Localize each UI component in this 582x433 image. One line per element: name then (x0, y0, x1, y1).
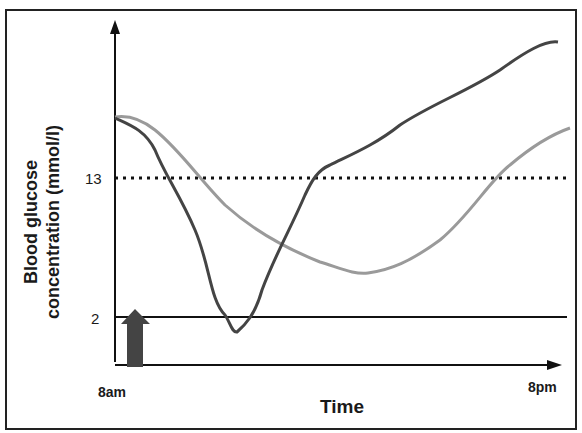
y-tick-2: 2 (91, 310, 99, 327)
x-axis-arrow-icon (547, 360, 562, 370)
chart-plot (0, 0, 582, 433)
x-tick-end: 8pm (528, 379, 557, 395)
y-axis-arrow-icon (110, 20, 120, 34)
y-axis-label: Blood glucose concentration (mmol/l) (20, 112, 64, 332)
x-axis-label: Time (320, 396, 364, 418)
x-tick-start: 8am (98, 384, 126, 400)
y-tick-13: 13 (85, 170, 102, 187)
light-glucose-curve (115, 116, 570, 273)
dark-glucose-curve (115, 42, 558, 332)
